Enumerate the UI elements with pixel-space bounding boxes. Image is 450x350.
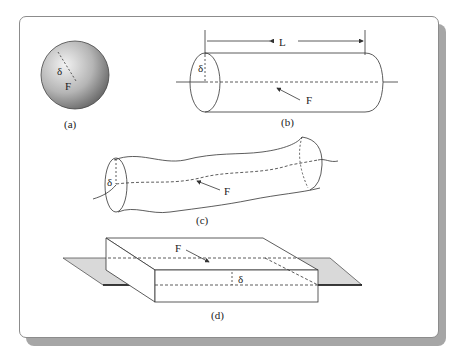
curved-right-end: [302, 137, 322, 190]
caption-d: (d): [211, 309, 224, 322]
caption-c: (c): [196, 214, 209, 227]
panel-d-slab: [63, 238, 362, 302]
cylinder-thickness-label: δ: [198, 62, 203, 74]
caption-b: (b): [281, 116, 294, 129]
slab-surface-label: F: [175, 242, 181, 254]
slab-thickness-label: δ: [238, 273, 243, 285]
curved-right-hidden: [300, 137, 308, 188]
curved-thickness-label: δ: [107, 176, 112, 188]
diagram-canvas: δ F (a) L δ F (b) δ F (c): [0, 0, 450, 350]
curved-surface-label: F: [224, 185, 230, 197]
caption-a: (a): [64, 118, 77, 131]
length-label: L: [279, 36, 286, 48]
sphere-surface-label: F: [65, 80, 71, 92]
slab-front-face: [155, 270, 318, 302]
curved-axis-right: [318, 160, 338, 162]
curved-axis-dashed: [116, 160, 318, 184]
panel-a-sphere: δ F (a): [41, 41, 109, 131]
sphere-thickness-label: δ: [57, 65, 62, 77]
cylinder-surface-label: F: [306, 94, 312, 106]
curved-top-edge: [114, 137, 302, 161]
cylinder-end-ellipse: [190, 53, 220, 112]
curved-axis-left: [93, 185, 116, 199]
cylinder-right-end: [365, 53, 383, 112]
curved-surface-arrow: [197, 181, 220, 190]
panel-c-curved-cylinder: [93, 137, 338, 213]
surface-pointer-arrow: [277, 88, 300, 100]
curved-bottom-edge: [118, 188, 320, 213]
sphere-shape: [41, 41, 109, 109]
panel-b-cylinder: [176, 30, 398, 112]
